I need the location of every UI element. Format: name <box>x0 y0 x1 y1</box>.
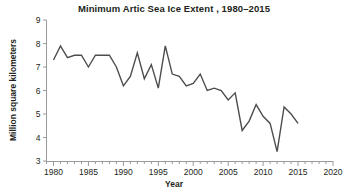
x-tick-label: 2000 <box>184 167 203 177</box>
x-tick-label: 2005 <box>219 167 238 177</box>
data-series-line <box>53 46 298 152</box>
sea-ice-extent-line-chart: Minimum Artic Sea Ice Extent , 1980–2015… <box>0 0 348 196</box>
y-tick-label: 9 <box>36 15 41 25</box>
plot-area: 3456789 19801985199019952000200520102015… <box>0 0 348 196</box>
y-tick-label: 4 <box>36 133 41 143</box>
y-tick-label: 5 <box>36 109 41 119</box>
y-tick-label: 3 <box>36 156 41 166</box>
x-tick-label: 1985 <box>79 167 98 177</box>
x-tick-label: 1980 <box>44 167 63 177</box>
x-tick-label: 2020 <box>324 167 343 177</box>
y-tick-label: 6 <box>36 86 41 96</box>
y-axis-tick-labels: 3456789 <box>36 15 41 166</box>
x-tick-label: 1995 <box>149 167 168 177</box>
x-axis-tick-labels: 198019851990199520002005201020152020 <box>44 167 343 177</box>
y-tick-label: 7 <box>36 62 41 72</box>
x-tick-label: 2010 <box>254 167 273 177</box>
y-tick-label: 8 <box>36 39 41 49</box>
x-tick-label: 2015 <box>289 167 308 177</box>
y-axis-tick-marks <box>43 20 47 161</box>
x-tick-label: 1990 <box>114 167 133 177</box>
